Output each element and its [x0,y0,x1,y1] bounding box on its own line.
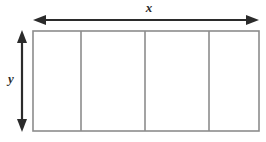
width-arrow-right-head-icon [246,15,259,25]
height-arrow-top-head-icon [17,30,27,43]
height-dimension-label: y [3,72,19,85]
width-dimension-label: x [139,1,159,14]
height-arrow-bottom-head-icon [17,119,27,132]
geometry-diagram: x y [0,0,266,142]
width-arrow-left-head-icon [33,15,46,25]
width-arrow [33,15,259,25]
diagram-canvas [0,0,266,142]
rectangle-outline [33,31,259,131]
